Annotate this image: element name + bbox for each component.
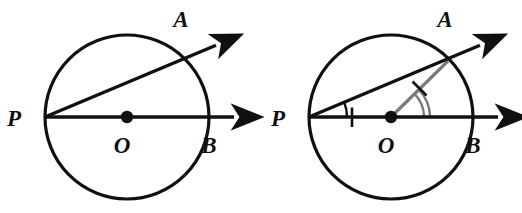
label-P-left: P (6, 106, 22, 131)
label-O-left: O (114, 133, 131, 158)
geometry-figure: A P O B A P O B (0, 0, 522, 213)
angle-arc-p-icon (344, 102, 347, 117)
label-B-left: B (200, 133, 216, 158)
label-A-right: A (435, 7, 452, 32)
left-diagram: A P O B (6, 7, 234, 199)
center-point-dot-right (385, 111, 397, 123)
label-O-right: O (378, 133, 395, 158)
label-B-right: B (464, 133, 480, 158)
label-P-right: P (270, 106, 286, 131)
figure-canvas: A P O B A P O B (0, 0, 522, 213)
center-point-dot-left (121, 111, 133, 123)
angle-arc-o-inner-icon (414, 94, 424, 117)
label-A-left: A (171, 7, 188, 32)
right-diagram: A P O B (270, 7, 498, 199)
